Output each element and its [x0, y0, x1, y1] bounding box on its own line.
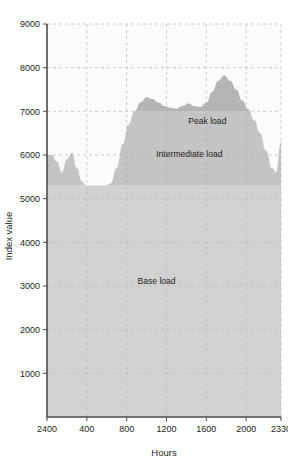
y-axis-ticks: 100020003000400050006000700080009000	[20, 19, 47, 378]
x-axis-title: Hours	[151, 447, 177, 458]
y-tick-label-8000: 8000	[20, 63, 40, 73]
band-label-base-load: Base load	[137, 276, 175, 286]
chart-figure: Base loadIntermediate loadPeak load 1000…	[0, 0, 288, 474]
y-tick-label-5000: 5000	[20, 194, 40, 204]
x-tick-label-2330: 2330	[271, 424, 288, 434]
band-label-intermediate-load: Intermediate load	[156, 149, 223, 159]
y-tick-label-9000: 9000	[20, 19, 40, 29]
y-tick-label-2000: 2000	[20, 325, 40, 335]
y-tick-label-7000: 7000	[20, 107, 40, 117]
x-tick-label-800: 800	[119, 424, 134, 434]
y-tick-label-3000: 3000	[20, 281, 40, 291]
load-duration-curve-plot: Base loadIntermediate loadPeak load 1000…	[0, 0, 288, 474]
y-tick-label-1000: 1000	[20, 369, 40, 379]
x-tick-label-400: 400	[79, 424, 94, 434]
y-tick-label-4000: 4000	[20, 238, 40, 248]
x-tick-label-2400: 2400	[37, 424, 57, 434]
x-tick-label-2000: 2000	[236, 424, 256, 434]
x-axis-ticks: 24004008001200160020002330	[37, 417, 288, 434]
x-tick-label-1200: 1200	[156, 424, 176, 434]
figure-title-clipped	[60, 0, 240, 8]
band-label-peak-load: Peak load	[188, 116, 226, 126]
y-tick-label-6000: 6000	[20, 150, 40, 160]
y-axis-title: Index value	[3, 212, 14, 261]
x-tick-label-1600: 1600	[196, 424, 216, 434]
